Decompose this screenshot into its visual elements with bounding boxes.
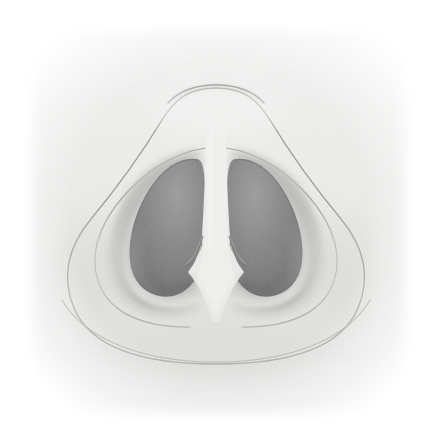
panel-vignette: [24, 22, 414, 424]
anatomical-figure: Nasal base view basal (worm's-eye) view …: [0, 0, 432, 442]
nasal-base-illustration: [0, 0, 432, 442]
